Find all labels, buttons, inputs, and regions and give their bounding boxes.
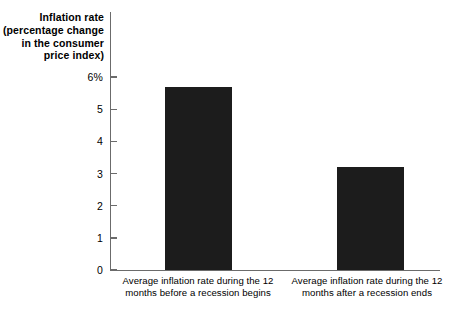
- y-tick-mark-4: [111, 141, 117, 142]
- bar-1: [337, 167, 404, 270]
- category-label-1-line-1: Average inflation rate during the 12: [281, 275, 453, 287]
- y-axis-title-line-1: Inflation rate: [0, 11, 104, 24]
- y-tick-label-0: 0: [41, 265, 103, 276]
- y-axis-title-line-2: (percentage change: [0, 24, 104, 37]
- y-tick-label-6: 6%: [41, 72, 103, 83]
- y-axis-title-line-4: price index): [0, 49, 104, 62]
- y-tick-mark-6: [111, 76, 117, 77]
- y-tick-label-4: 4: [41, 136, 103, 147]
- y-tick-label-3: 3: [41, 169, 103, 180]
- y-tick-mark-5: [111, 109, 117, 110]
- y-tick-label-5: 5: [41, 104, 103, 115]
- category-label-0-line-2: months before a recession begins: [112, 287, 284, 299]
- x-axis-line: [110, 270, 440, 271]
- y-tick-mark-0: [111, 269, 117, 270]
- y-tick-mark-2: [111, 205, 117, 206]
- y-tick-label-1: 1: [41, 233, 103, 244]
- x-axis-category-label-0: Average inflation rate during the 12 mon…: [112, 275, 284, 298]
- bar-chart: Inflation rate (percentage change in the…: [0, 0, 464, 314]
- y-tick-mark-3: [111, 173, 117, 174]
- y-axis-title: Inflation rate (percentage change in the…: [0, 11, 104, 62]
- x-axis-category-label-1: Average inflation rate during the 12 mon…: [281, 275, 453, 298]
- y-tick-mark-1: [111, 237, 117, 238]
- category-label-1-line-2: months after a recession ends: [281, 287, 453, 299]
- y-tick-label-2: 2: [41, 201, 103, 212]
- y-axis-title-line-3: in the consumer: [0, 37, 104, 50]
- bar-0: [165, 87, 232, 270]
- category-label-0-line-1: Average inflation rate during the 12: [112, 275, 284, 287]
